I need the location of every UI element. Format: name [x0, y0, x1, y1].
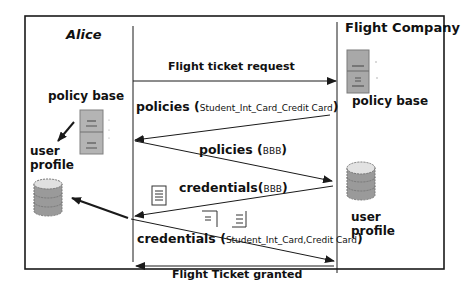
company-policy-base-label: policy base: [352, 94, 428, 108]
msg-label: policies (: [199, 142, 263, 157]
msg-args: Student_Int_Card_Credit Card: [200, 103, 333, 113]
company-policy-base-cabinet-icon: [347, 50, 378, 93]
msg-args: Student_Int_Card,Credit Card: [226, 235, 357, 245]
arrow-credentials-to-profile: [72, 198, 128, 218]
msg-flight-ticket-request: Flight ticket request: [168, 60, 295, 73]
msg-close: ): [357, 231, 363, 246]
msg-close: ): [333, 99, 339, 114]
msg-label: policies (: [136, 99, 200, 114]
msg-policies-bbb: policies (BBB): [199, 139, 287, 158]
msg-args: BBB: [264, 184, 283, 194]
msg-close: ): [281, 142, 287, 157]
arrow-policies-student: [135, 115, 330, 140]
company-user-profile-database-icon: [347, 162, 375, 200]
alice-user-profile-database-icon: [34, 179, 62, 216]
actor-alice: Alice: [66, 27, 102, 42]
msg-credentials-student: credentials (Student_Int_Card,Credit Car…: [137, 228, 363, 247]
credential-document-icon: [152, 186, 166, 205]
alice-user-profile-label-line2: profile: [30, 158, 74, 172]
msg-flight-ticket-granted: Flight Ticket granted: [172, 268, 302, 281]
alice-user-profile-label-line1: user: [30, 144, 74, 158]
msg-label: credentials(: [179, 180, 264, 195]
alice-user-profile-label: user profile: [30, 144, 74, 172]
msg-label: credentials (: [137, 231, 226, 246]
alice-policy-base-cabinet-icon: [80, 110, 110, 154]
msg-policies-student: policies (Student_Int_Card_Credit Card): [136, 96, 338, 115]
actor-flight-company: Flight Company: [345, 20, 460, 35]
msg-args: BBB: [263, 146, 282, 156]
msg-credentials-bbb: credentials(BBB): [179, 177, 288, 196]
student-card-document-icon: [202, 211, 217, 227]
arrow-policy-to-profile: [58, 122, 74, 141]
msg-close: ): [282, 180, 288, 195]
alice-policy-base-label: policy base: [48, 89, 124, 103]
credit-card-document-icon: [232, 211, 246, 227]
company-user-profile-label-line1: user: [351, 210, 395, 224]
